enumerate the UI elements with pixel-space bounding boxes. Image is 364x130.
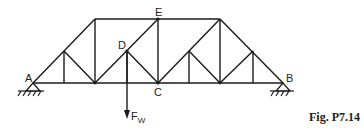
support-b-roller — [270, 83, 294, 96]
force-arrow-icon — [124, 51, 130, 119]
support-a-pin — [18, 83, 44, 96]
node-label-b: B — [286, 73, 293, 84]
node-label-a: A — [25, 73, 32, 84]
node-label-e: E — [155, 7, 162, 18]
truss-members — [33, 19, 283, 83]
figure-caption: Fig. P7.14 — [309, 110, 360, 125]
node-label-d: D — [118, 40, 126, 51]
force-label: FW — [131, 111, 145, 125]
node-label-c: C — [154, 87, 162, 98]
